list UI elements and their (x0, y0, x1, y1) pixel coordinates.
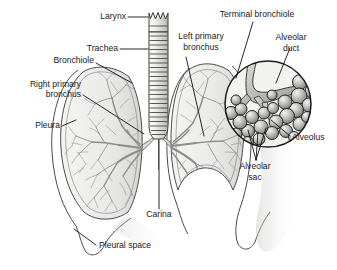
label-alveolar-duct-line1: Alveolar (275, 32, 306, 42)
label-carina: Carina (146, 209, 172, 219)
label-left-primary-bronchus-line1: Left primary (178, 31, 224, 41)
label-pleural-space: Pleural space (99, 240, 151, 250)
label-alveolar-sac-line1: Alveolar (239, 161, 270, 171)
label-alveolar-duct-line2: duct (283, 43, 300, 53)
respiratory-system-diagram: Larynx Trachea Bronchiole Right primary … (0, 0, 337, 270)
label-alveolus: Alveolus (292, 132, 324, 142)
label-right-primary-bronchus-line1: Right primary (30, 79, 82, 89)
label-larynx: Larynx (100, 11, 126, 21)
label-alveolar-sac-line2: sac (248, 172, 262, 182)
label-pleura: Pleura (35, 120, 60, 130)
label-trachea: Trachea (87, 43, 118, 53)
trachea-structure (149, 32, 168, 139)
label-bronchiole: Bronchiole (53, 55, 94, 65)
label-terminal-bronchiole: Terminal bronchiole (220, 9, 295, 19)
leader-pleural-space (74, 229, 96, 245)
larynx-structure (149, 13, 168, 33)
label-right-primary-bronchus-line2: bronchus (46, 89, 81, 99)
label-left-primary-bronchus-line2: bronchus (183, 42, 218, 52)
